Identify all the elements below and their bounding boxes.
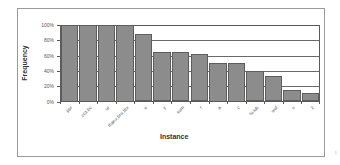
bar-r <box>191 54 208 101</box>
bar-n <box>283 90 300 101</box>
x-tick-mark <box>171 101 172 104</box>
y-tick-label: 0% <box>47 99 54 105</box>
x-tick-mark <box>190 101 191 104</box>
x-tick-mark <box>97 101 98 104</box>
bar-thanx.bnx.tbx <box>116 25 133 102</box>
bar-a <box>209 63 226 101</box>
y-tick-label: 100% <box>41 22 54 28</box>
bar-ppr <box>61 25 78 102</box>
bar-ur <box>98 25 115 102</box>
x-tick-mark <box>227 101 228 104</box>
y-tick-label: 60% <box>44 53 54 59</box>
x-tick-mark <box>209 101 210 104</box>
y-tick-label: 20% <box>44 83 54 89</box>
x-tick-mark <box>60 101 61 104</box>
x-tick-mark <box>116 101 117 104</box>
y-tick-label: 40% <box>44 68 54 74</box>
x-tick-mark <box>264 101 265 104</box>
bar-lu.lub <box>246 71 263 102</box>
x-tick-mark <box>134 101 135 104</box>
bar-u <box>135 34 152 101</box>
x-axis-title: Instance <box>160 133 188 140</box>
x-tick-mark <box>246 101 247 104</box>
bar-wuf <box>265 76 282 101</box>
x-tick-mark <box>283 101 284 104</box>
y-axis-line <box>60 25 61 102</box>
x-tick-mark <box>79 101 80 104</box>
bar-y <box>153 52 170 102</box>
page-number: 1 <box>335 151 337 155</box>
bar-sum <box>172 52 189 102</box>
y-axis-title: Frequency <box>21 45 28 80</box>
x-tick-mark <box>153 101 154 104</box>
y-tick-label: 80% <box>44 37 54 43</box>
x-tick-mark <box>301 101 302 104</box>
x-tick-mark <box>319 101 320 104</box>
bar-c <box>228 63 245 101</box>
bar-coz.bc <box>79 25 96 102</box>
